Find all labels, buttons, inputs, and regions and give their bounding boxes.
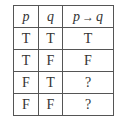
cell-p: T (14, 28, 39, 50)
cell-result: T (63, 28, 114, 50)
cell-p: F (14, 94, 39, 116)
cell-q: T (39, 72, 63, 94)
implication-lhs: p (73, 9, 80, 24)
table-row: F T ? (14, 72, 114, 94)
truth-table: p q p→q T T T T F F F T ? F F ? (13, 5, 114, 116)
header-p: p (14, 6, 39, 28)
implies-arrow-icon: → (80, 10, 96, 24)
table-row: F F ? (14, 94, 114, 116)
cell-q: T (39, 28, 63, 50)
table-row: T F F (14, 50, 114, 72)
table-row: T T T (14, 28, 114, 50)
cell-result: ? (63, 94, 114, 116)
cell-p: T (14, 50, 39, 72)
cell-p: F (14, 72, 39, 94)
implication-rhs: q (96, 9, 103, 24)
cell-q: F (39, 94, 63, 116)
cell-result: F (63, 50, 114, 72)
header-row: p q p→q (14, 6, 114, 28)
header-q: q (39, 6, 63, 28)
cell-result: ? (63, 72, 114, 94)
header-implication: p→q (63, 6, 114, 28)
cell-q: F (39, 50, 63, 72)
